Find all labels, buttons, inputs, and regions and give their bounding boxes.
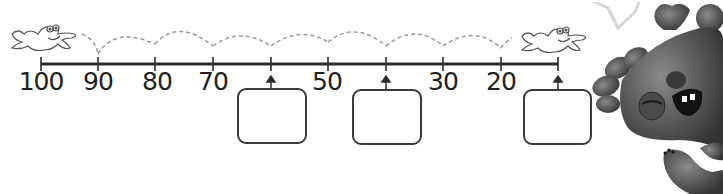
tick-label-100: 100 <box>19 69 64 94</box>
tick-label-20: 20 <box>486 69 516 94</box>
answer-box-40[interactable] <box>352 89 422 145</box>
frog-icon <box>12 25 76 51</box>
tick-label-50: 50 <box>312 69 342 94</box>
tick-label-90: 90 <box>83 69 113 94</box>
speech-bubble <box>560 0 650 28</box>
answer-box-10[interactable] <box>523 89 592 145</box>
tick-label-70: 70 <box>198 69 228 94</box>
tick-label-30: 30 <box>428 69 458 94</box>
monster-illustration <box>589 4 723 194</box>
number-line-worksheet: 100 90 80 70 50 30 20 <box>0 0 723 194</box>
number-line <box>41 57 558 71</box>
tick-label-80: 80 <box>142 69 172 94</box>
frog-icon <box>522 27 586 53</box>
hop-arcs <box>82 31 512 54</box>
answer-box-60[interactable] <box>237 88 307 144</box>
